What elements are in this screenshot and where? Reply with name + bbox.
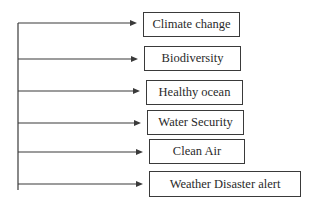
arrowhead-icon: [131, 56, 138, 62]
node-box: Healthy ocean: [146, 80, 243, 105]
node-box: Biodiversity: [144, 46, 241, 71]
node-box: Water Security: [147, 110, 244, 135]
arrowhead-icon: [136, 181, 143, 187]
node-label: Healthy ocean: [159, 85, 231, 100]
node-label: Water Security: [158, 115, 232, 130]
node-box: Clean Air: [149, 139, 245, 164]
node-label: Clean Air: [173, 144, 221, 159]
arrowhead-icon: [134, 120, 141, 126]
diagram-canvas: Climate changeBiodiversityHealthy oceanW…: [0, 0, 317, 208]
node-box: Climate change: [143, 12, 240, 37]
arrowhead-icon: [136, 149, 143, 155]
arrowhead-icon: [133, 88, 140, 94]
node-label: Biodiversity: [162, 51, 224, 66]
node-label: Weather Disaster alert: [170, 177, 281, 192]
node-box: Weather Disaster alert: [149, 171, 301, 197]
node-label: Climate change: [152, 17, 230, 32]
arrowhead-icon: [130, 20, 137, 26]
